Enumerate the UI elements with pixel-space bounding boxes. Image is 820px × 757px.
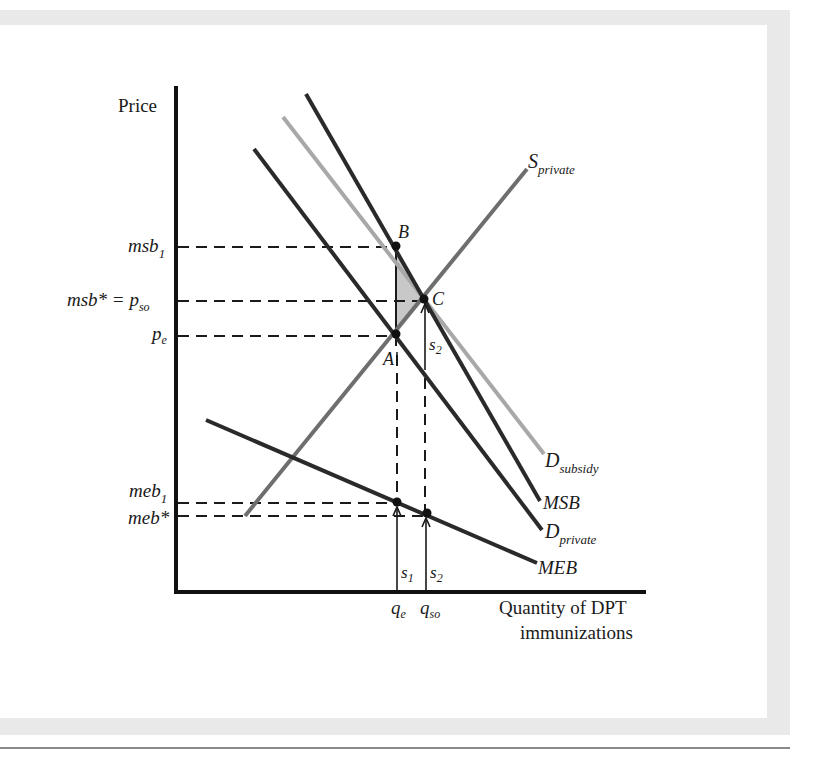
s-private-curve <box>245 169 527 516</box>
point-mebstar <box>423 509 432 518</box>
d-subsidy-label: Dsubsidy <box>544 449 599 476</box>
point-meb1 <box>393 498 402 507</box>
d-private-label: Dprivate <box>544 520 597 547</box>
economics-chart: Price Quantity of DPT immunizations msb1… <box>0 0 820 757</box>
dashed-guides <box>178 247 425 516</box>
s1-label: s1 <box>401 563 414 585</box>
x-axis-label-line2: immunizations <box>520 622 633 643</box>
msb1-label: msb1 <box>128 235 165 261</box>
s-private-label: Sprivate <box>528 150 575 177</box>
point-b <box>392 242 401 251</box>
msbstar-label: msb* = pso <box>67 289 150 314</box>
point-b-label: B <box>398 222 409 242</box>
x-axis-label-line1: Quantity of DPT <box>499 597 627 618</box>
pe-label: pe <box>150 323 168 347</box>
s2-upper-label: s2 <box>429 335 442 357</box>
msb-label: MSB <box>542 492 580 513</box>
point-a-label: A <box>382 349 395 369</box>
meb-label: MEB <box>537 557 577 578</box>
point-a <box>392 330 401 339</box>
y-axis-label: Price <box>118 95 157 116</box>
meb1-label: meb1 <box>129 480 167 506</box>
qso-label: qso <box>420 597 440 621</box>
s2-label: s2 <box>430 563 443 585</box>
meb-curve <box>206 420 537 563</box>
qe-label: qe <box>391 597 407 621</box>
point-c-label: C <box>432 289 445 309</box>
subsidy-arrows <box>393 304 430 590</box>
d-subsidy-curve <box>283 117 544 454</box>
mebstar-label: meb* <box>128 507 170 528</box>
point-c <box>420 295 429 304</box>
